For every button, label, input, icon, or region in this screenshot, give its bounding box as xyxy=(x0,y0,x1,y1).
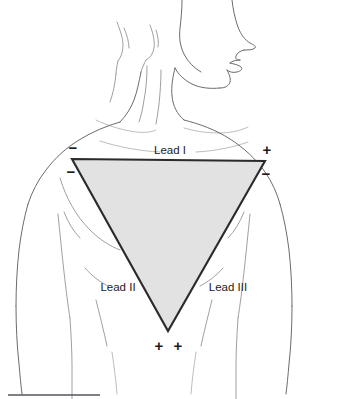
lead-2-label: Lead II xyxy=(100,281,135,293)
einthovens-triangle-figure: − − + − + + Lead I Lead II Lead III xyxy=(0,0,338,399)
bottom-left-plus-icon: + xyxy=(155,337,164,354)
figure-canvas: − − + − + + Lead I Lead II Lead III xyxy=(0,0,338,399)
bottom-right-plus-icon: + xyxy=(174,337,183,354)
right-upper-plus-icon: + xyxy=(263,141,272,158)
left-upper-minus-icon: − xyxy=(69,139,78,156)
right-lower-minus-icon: − xyxy=(262,165,271,182)
lead-1-label: Lead I xyxy=(154,144,186,156)
left-lower-minus-icon: − xyxy=(67,163,76,180)
lead-3-label: Lead III xyxy=(209,281,247,293)
